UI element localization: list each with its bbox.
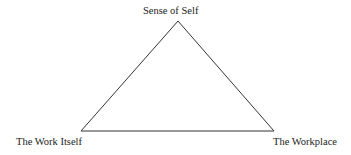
triangle-shape	[81, 21, 274, 131]
label-sense-of-self: Sense of Self	[143, 5, 198, 17]
label-the-workplace: The Workplace	[273, 136, 337, 148]
triangle-diagram	[0, 0, 351, 155]
label-the-work-itself: The Work Itself	[16, 136, 82, 148]
